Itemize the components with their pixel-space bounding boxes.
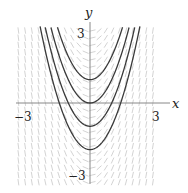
x-tick-3: 3 xyxy=(152,110,160,124)
y-tick-3: 3 xyxy=(77,27,85,41)
y-tick-neg3: −3 xyxy=(68,169,86,183)
x-axis-label: x xyxy=(172,96,180,111)
y-axis-label: y xyxy=(84,5,93,20)
slope-field xyxy=(18,27,153,185)
slope-field-chart: x y −3 3 3 −3 xyxy=(0,0,188,193)
x-tick-neg3: −3 xyxy=(14,110,32,124)
